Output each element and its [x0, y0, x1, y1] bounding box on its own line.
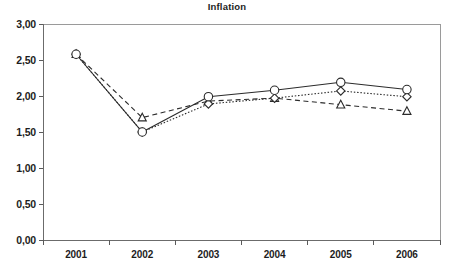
data-point-circle	[403, 85, 411, 93]
x-tick-label: 2003	[197, 249, 219, 260]
inflation-chart: Inflation 0,000,501,001,502,002,503,00 2…	[0, 0, 454, 268]
y-tick-label: 2,00	[16, 90, 36, 102]
x-tick-label: 2002	[131, 249, 153, 260]
x-tick-label: 2005	[330, 249, 352, 260]
y-tick-label: 1,00	[16, 162, 36, 174]
series-line-circle	[76, 54, 407, 132]
y-tick-label: 3,00	[16, 18, 36, 30]
chart-plot-area: 0,000,501,001,502,002,503,00 20012002200…	[0, 0, 454, 268]
xtick-label-group: 200120022003200420052006	[65, 249, 418, 260]
data-point-circle	[270, 86, 278, 94]
data-point-circle	[138, 128, 146, 136]
y-tick-label: 0,50	[16, 198, 36, 210]
y-tick-label: 2,50	[16, 54, 36, 66]
x-tick-label: 2001	[65, 249, 87, 260]
data-point-diamond	[337, 87, 345, 95]
ytick-group	[39, 24, 43, 240]
x-tick-label: 2004	[264, 249, 286, 260]
series-group	[72, 50, 411, 136]
data-point-circle	[72, 50, 80, 58]
ytick-label-group: 0,000,501,001,502,002,503,00	[16, 18, 36, 246]
x-tick-label: 2006	[396, 249, 418, 260]
y-tick-label: 1,50	[16, 126, 36, 138]
series-line-triangle	[76, 54, 407, 117]
frame-group	[43, 24, 440, 240]
y-tick-label: 0,00	[16, 234, 36, 246]
data-point-circle	[204, 93, 212, 101]
data-point-triangle	[403, 107, 411, 115]
xtick-group	[43, 240, 440, 245]
data-point-circle	[337, 78, 345, 86]
